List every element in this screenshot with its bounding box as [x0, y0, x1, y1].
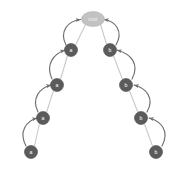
- nodes-group: rootaaaabbbb: [25, 12, 163, 159]
- tree-edge-b1-b2: [114, 56, 123, 80]
- graph-node-b3[interactable]: b: [135, 112, 148, 125]
- node-label-a3: a: [42, 115, 45, 121]
- node-label-b4: b: [155, 149, 158, 155]
- tree-diagram: rootaaaabbbb: [0, 0, 184, 172]
- graph-node-root[interactable]: root: [82, 12, 105, 27]
- tree-edge-root-a1: [76, 25, 86, 46]
- tree-edge-a2-a3: [47, 91, 54, 113]
- node-label-b3: b: [140, 115, 143, 121]
- tree-edge-root-b1: [101, 25, 107, 45]
- suffix-link-b1-to-root: [104, 20, 119, 46]
- suffix-link-a3-to-a2: [36, 85, 51, 112]
- graph-node-a2[interactable]: a: [51, 79, 64, 92]
- graph-node-a4[interactable]: a: [25, 146, 38, 159]
- node-label-b2: b: [125, 82, 128, 88]
- tree-edge-a3-a4: [35, 124, 40, 147]
- suffix-link-b2-to-b1: [117, 50, 135, 79]
- graph-node-a3[interactable]: a: [37, 112, 50, 125]
- graph-node-b2[interactable]: b: [120, 79, 133, 92]
- graph-node-b1[interactable]: b: [104, 44, 117, 57]
- node-label-a2: a: [56, 82, 59, 88]
- node-label-b1: b: [109, 47, 112, 53]
- tree-edge-b3-b4: [145, 124, 153, 146]
- graph-node-b4[interactable]: b: [150, 146, 163, 159]
- graph-canvas: rootaaaabbbb: [0, 0, 184, 172]
- tree-edge-b2-b3: [130, 91, 139, 113]
- suffix-link-a2-to-a1: [50, 50, 65, 79]
- suffix-links-group: [23, 20, 165, 147]
- node-label-root: root: [88, 16, 98, 22]
- graph-node-a1[interactable]: a: [65, 44, 78, 57]
- node-label-a4: a: [30, 149, 33, 155]
- tree-edge-a1-a2: [61, 56, 68, 80]
- node-label-a1: a: [70, 47, 73, 53]
